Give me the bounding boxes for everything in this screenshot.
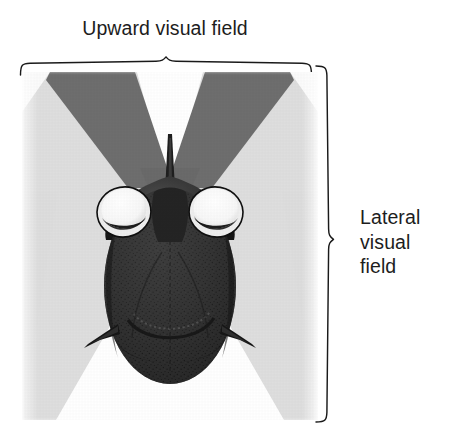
lateral-visual-field-label: Lateral visual field [360,205,450,279]
fish-visual-field-image [22,72,318,420]
snout [152,188,188,243]
visual-field-figure: Upward visual field Lateral visual field [0,0,451,437]
lateral-visual-field-label-line1: Lateral [360,205,450,230]
plate-sheen-left [22,72,38,420]
plate-sheen-right [302,72,318,420]
lateral-visual-field-label-line2: visual [360,230,450,255]
upward-visual-field-label: Upward visual field [0,16,330,40]
lateral-visual-field-label-line3: field [360,254,450,279]
